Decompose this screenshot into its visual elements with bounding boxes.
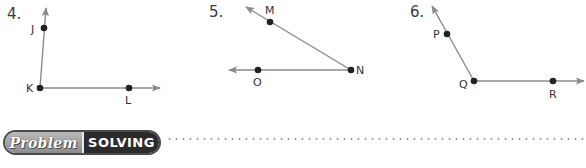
angle-figure-mno: M N O xyxy=(229,4,364,89)
ray-qp xyxy=(432,6,474,81)
ray-kj xyxy=(40,8,46,88)
point-j xyxy=(41,25,48,32)
point-o xyxy=(255,67,262,74)
problem-solving-banner: Problem SOLVING xyxy=(3,130,161,155)
ray-nm xyxy=(246,7,351,70)
label-o: O xyxy=(253,76,262,89)
label-j: J xyxy=(30,23,34,36)
label-l: L xyxy=(125,94,132,107)
dotted-divider xyxy=(166,138,586,140)
angle-figure-jkl: J K L xyxy=(26,8,160,107)
banner-solving-label: SOLVING xyxy=(88,135,155,150)
banner-right-segment: SOLVING xyxy=(82,132,159,153)
banner-left-segment: Problem xyxy=(5,132,82,153)
label-n: N xyxy=(356,64,364,77)
label-r: R xyxy=(549,88,557,101)
label-k: K xyxy=(26,82,34,95)
point-m xyxy=(267,19,274,26)
label-m: M xyxy=(265,4,275,17)
point-k xyxy=(37,85,44,92)
point-r xyxy=(550,78,557,85)
label-p: P xyxy=(433,28,440,41)
point-p xyxy=(444,31,451,38)
point-n xyxy=(348,67,355,74)
angle-figure-pqr: P Q R xyxy=(432,6,584,101)
banner-problem-label: Problem xyxy=(9,135,77,151)
point-q xyxy=(471,78,478,85)
point-l xyxy=(126,85,133,92)
label-q: Q xyxy=(459,78,468,91)
